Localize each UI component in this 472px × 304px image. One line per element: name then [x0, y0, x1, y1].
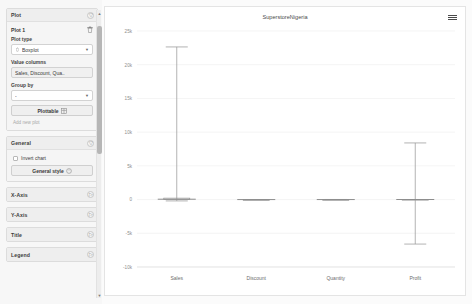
value-columns-label: Value columns	[11, 59, 93, 65]
app-window: Plot ▽ Plot 1 Plot type B	[0, 0, 472, 304]
group-by-label: Group by	[11, 82, 93, 88]
scroll-down-arrow-icon[interactable]: ▼	[97, 292, 102, 298]
table-icon	[61, 108, 67, 114]
title-section-title: Title	[11, 232, 22, 238]
trash-icon[interactable]	[87, 26, 93, 33]
palette-icon	[66, 168, 72, 174]
x-axis-section: X-Axis ▷	[6, 187, 98, 202]
svg-text:25k: 25k	[125, 29, 133, 34]
boxplot-icon	[15, 47, 20, 52]
chart-pane: SuperstoreNigeria 25k20k15k10k5k0-5k-10k…	[104, 6, 466, 296]
general-section-title: General	[11, 140, 31, 146]
svg-text:Discount: Discount	[247, 275, 267, 281]
group-by-value: -	[15, 93, 83, 99]
title-section: Title ▷	[6, 227, 98, 242]
value-columns-field[interactable]: Sales, Discount, Qua..	[11, 67, 93, 78]
chevron-expand-icon[interactable]: ▷	[87, 251, 94, 258]
plot-type-label: Plot type	[11, 36, 93, 42]
plot-section-header[interactable]: Plot ▽	[7, 9, 97, 22]
group-by-select[interactable]: - ▼	[11, 90, 93, 101]
y-axis-section-title: Y-Axis	[11, 212, 27, 218]
chevron-expand-icon[interactable]: ▷	[87, 191, 94, 198]
legend-section-header[interactable]: Legend ▷	[7, 248, 97, 261]
chevron-down-icon: ▼	[85, 47, 89, 52]
legend-section-title: Legend	[11, 252, 30, 258]
x-axis-section-title: X-Axis	[11, 192, 28, 198]
general-section-body: Invert chart General style	[7, 150, 97, 181]
general-section: General ▽ Invert chart General style	[6, 136, 98, 182]
plot-item-label: Plot 1	[11, 27, 25, 33]
plot-type-value: Boxplot	[22, 47, 83, 53]
plot-type-select[interactable]: Boxplot ▼	[11, 44, 93, 55]
add-new-plot-link[interactable]: Add new plot	[13, 120, 93, 125]
general-style-button-label: General style	[32, 168, 63, 174]
svg-text:-5k: -5k	[126, 231, 133, 236]
plot-section-title: Plot	[11, 12, 21, 18]
general-section-header[interactable]: General ▽	[7, 137, 97, 150]
svg-text:Quantity: Quantity	[326, 275, 345, 281]
svg-text:Profit: Profit	[409, 275, 421, 281]
scroll-up-arrow-icon[interactable]: ▲	[97, 10, 102, 16]
chevron-down-icon: ▼	[85, 93, 89, 98]
svg-text:-10k: -10k	[123, 265, 133, 270]
invert-chart-label: Invert chart	[21, 155, 46, 161]
y-axis-section: Y-Axis ▷	[6, 207, 98, 222]
legend-section: Legend ▷	[6, 247, 98, 262]
plot-section-body: Plot 1 Plot type Boxplot ▼ Value column	[7, 22, 97, 130]
y-axis-section-header[interactable]: Y-Axis ▷	[7, 208, 97, 221]
sidebar-scrollbar-track[interactable]: ▲ ▼	[96, 10, 101, 298]
settings-sidebar: Plot ▽ Plot 1 Plot type B	[0, 0, 102, 304]
general-style-button[interactable]: General style	[11, 165, 93, 176]
chevron-collapse-icon[interactable]: ▽	[87, 12, 94, 19]
plot-section: Plot ▽ Plot 1 Plot type B	[6, 8, 98, 131]
plot-item-row[interactable]: Plot 1	[11, 26, 93, 33]
plottable-button-label: Plottable	[37, 108, 58, 114]
svg-text:20k: 20k	[125, 63, 133, 68]
svg-text:5k: 5k	[127, 164, 133, 169]
svg-text:0: 0	[129, 197, 132, 202]
title-section-header[interactable]: Title ▷	[7, 228, 97, 241]
value-columns-value: Sales, Discount, Qua..	[15, 70, 65, 76]
svg-text:15k: 15k	[125, 96, 133, 101]
chevron-collapse-icon[interactable]: ▽	[87, 140, 94, 147]
boxplot-chart: 25k20k15k10k5k0-5k-10kSalesDiscountQuant…	[105, 7, 467, 297]
chevron-expand-icon[interactable]: ▷	[87, 211, 94, 218]
plottable-button[interactable]: Plottable	[11, 105, 93, 116]
svg-text:Sales: Sales	[170, 275, 183, 281]
chevron-expand-icon[interactable]: ▷	[87, 231, 94, 238]
x-axis-section-header[interactable]: X-Axis ▷	[7, 188, 97, 201]
invert-chart-checkbox[interactable]	[13, 156, 18, 161]
invert-chart-row[interactable]: Invert chart	[13, 155, 93, 161]
svg-text:10k: 10k	[125, 130, 133, 135]
sidebar-scrollbar-thumb[interactable]	[97, 26, 102, 154]
